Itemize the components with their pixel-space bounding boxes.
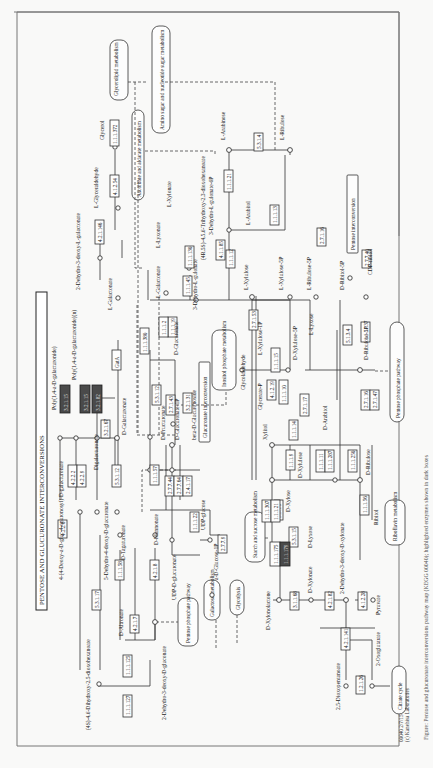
cpd-glucose-1p: a-D-Glucose-1P: [213, 544, 219, 580]
svg-text:1.1.1.9: 1.1.1.9: [288, 453, 294, 468]
enzyme-2-7-7-9[interactable]: 2.7.7.9: [218, 535, 227, 553]
enzyme-2-4-1-17[interactable]: 2.4.1.17: [183, 476, 192, 496]
enzyme-1-1-1-372[interactable]: 1.1.1.372: [110, 120, 119, 146]
cpd-l-galactonate: L-Galactonate: [107, 277, 113, 310]
svg-text:4.2.1.7: 4.2.1.7: [132, 616, 138, 631]
enzyme-2-7-1-16[interactable]: 2.7.1.16: [361, 390, 370, 410]
map-pentose-phosphate-main[interactable]: Pentose phosphate pathway: [390, 322, 404, 422]
enzyme-4-2-1-8[interactable]: 4.2.1.8: [150, 560, 159, 580]
svg-text:5.3.1.12: 5.3.1.12: [154, 386, 160, 403]
enzyme-1-1-1-125[interactable]: 1.1.1.125: [123, 655, 132, 677]
cpd-d-ribitol-5p: D-Ribitol-5P: [339, 261, 345, 290]
svg-text:4.2.1.82: 4.2.1.82: [327, 591, 333, 608]
map-glycerolipid[interactable]: Glycerolipid metabolism: [110, 40, 128, 100]
enzyme-2-7-1-47[interactable]: 2.7.1.47: [370, 390, 379, 410]
cpd-d-glucuronate: D-Glucuronate: [173, 321, 179, 355]
svg-text:1.1.1.56: 1.1.1.56: [362, 496, 368, 513]
svg-text:4.1.2.28: 4.1.2.28: [360, 591, 366, 608]
enzyme-5-3-1-17[interactable]: 5.3.1.17: [92, 590, 101, 610]
enzyme-2-7-1-17[interactable]: 2.7.1.17: [300, 394, 309, 416]
enzyme-4-2-2-9[interactable]: 4.2.2.9: [77, 465, 86, 487]
cpd-glycerate-p: Glycerate-P: [257, 383, 263, 410]
cpd-l-arabinose: L-Arabinose: [220, 111, 226, 140]
enzyme-1-1-1-56[interactable]: 1.1.1.56: [360, 495, 369, 515]
map-glucuronate-interconversion[interactable]: Glucuronate interconversion: [199, 362, 210, 442]
svg-text:3.2.1.15: 3.2.1.15: [83, 394, 89, 411]
enzyme-3-1-1-68[interactable]: 3.1.1.68: [290, 591, 299, 610]
enzyme-3-2-1-82[interactable]: 3.2.1.82: [92, 385, 102, 413]
enzyme-2-7-1-16-top[interactable]: 2.7.1.16: [317, 227, 326, 246]
enzyme-1-1-1-10[interactable]: 1.1.1.10: [279, 380, 288, 404]
enzyme-5-1-3-4[interactable]: 5.1.3.4: [343, 325, 352, 345]
enzyme-5-3-1-12[interactable]: 5.3.1.12: [112, 465, 121, 487]
enzyme-1-1-1-380[interactable]: 1.1.1.380: [140, 328, 149, 354]
enzyme-1-1-1-127[interactable]: 1.1.1.127: [123, 695, 132, 717]
cpd-dioxopentanoate: 2,5-Dioxopentanoate: [335, 662, 341, 710]
enzyme-1-1-1-11[interactable]: 1.1.1.11: [316, 450, 325, 472]
enzyme-1-1-1-21-arabinose[interactable]: 1.1.1.21: [224, 170, 233, 192]
enzyme-4-2-1-82[interactable]: 4.2.1.82: [325, 591, 334, 610]
svg-text:3.2.1.15: 3.2.1.15: [63, 394, 69, 411]
enzyme-4-1-2-54[interactable]: 4.1.2.54: [110, 175, 119, 197]
svg-text:5.1.3.4: 5.1.3.4: [345, 328, 351, 343]
cpd-l-xylonate: L-Xylonate: [166, 181, 172, 207]
map-amino-sugar[interactable]: Amino sugar and nucleotide sugar metabol…: [152, 26, 170, 133]
enzyme-4-2-1-141[interactable]: 4.2.1.141: [341, 628, 350, 650]
map-glycolysis[interactable]: Glycolysis: [230, 580, 244, 615]
enzyme-1-1-1-307[interactable]: 1.1.1.307: [262, 500, 271, 522]
svg-text:3.2.1.82: 3.2.1.82: [95, 394, 101, 411]
enzyme-4-1-2-28[interactable]: 4.1.2.28: [358, 591, 367, 610]
cpd-l-arabitol: L-Arabitol: [245, 201, 251, 225]
cpd-3-dehydro-l-gulonate: 3-Dehydro-L-gulonate: [192, 259, 198, 310]
enzyme-1-1-1-2[interactable]: 1.1.1.2: [159, 317, 168, 337]
enzyme-1-1-1-15[interactable]: 1.1.1.15: [271, 348, 280, 372]
svg-text:1.1.1.21: 1.1.1.21: [273, 503, 279, 520]
copyright: (c) Kanehisa Laboratories: [404, 688, 411, 742]
cpd-dehydro-deoxy-galactonate: 2-Dehydro-3-deoxy-L-galactonate: [75, 212, 81, 290]
svg-text:Citrate cycle: Citrate cycle: [397, 682, 403, 710]
enzyme-4-1-2-19[interactable]: 4.1.2.19: [267, 380, 276, 400]
enzyme-5-3-1-4[interactable]: 5.3.1.4: [254, 133, 263, 151]
enzyme-3-2-1-67[interactable]: 3.2.1.67: [101, 419, 110, 438]
enzyme-1-1-1-45[interactable]: 1.1.1.45: [183, 276, 192, 296]
frame-border: [14, 12, 399, 236]
enzyme-1-1-1-14[interactable]: 1.1.1.14: [289, 420, 298, 440]
enzyme-1-1-1-175[interactable]: 1.1.1.175: [270, 542, 280, 566]
svg-text:4.1.2.54: 4.1.2.54: [112, 178, 118, 195]
svg-text:1.1.1.179: 1.1.1.179: [283, 544, 289, 564]
enzyme-1-1-1-13[interactable]: 1.1.1.13: [270, 205, 279, 225]
enzyme-1-2-1-26[interactable]: 1.2.1.26: [356, 675, 365, 694]
enzyme-4-1-1-85[interactable]: 4.1.1.85: [216, 240, 225, 260]
enzyme-4-2-2-2[interactable]: 4.2.2.2: [68, 465, 77, 487]
cpd-dehydro-deoxy-xylonate: 2-Dehydro-3-deoxy-D-xylonate: [339, 522, 345, 594]
enzyme-4-2-1-146[interactable]: 4.2.1.146: [95, 220, 104, 244]
cpd-deoxy-gluc-enuronosyl-galacturonate: 4-(4-Deoxy-a-D-gluc-4-enuronosyl)-D-gala…: [58, 461, 65, 580]
cpd-l-lyxonate: L-Lyxonate: [155, 221, 161, 248]
svg-text:4.2.2.2: 4.2.2.2: [70, 470, 76, 485]
map-riboflavin[interactable]: Riboflavin metabolism: [385, 491, 405, 545]
enzyme-1-1-1-250[interactable]: 1.1.1.250: [348, 450, 357, 472]
svg-text:GatA: GatA: [114, 357, 120, 368]
enzyme-1-1-1-287[interactable]: 1.1.1.287: [325, 450, 334, 472]
enzyme-1-1-1-9[interactable]: 1.1.1.9: [286, 450, 295, 470]
map-pentose-interconversion[interactable]: Pentose interconversion: [347, 175, 358, 253]
enzyme-1-1-1-21[interactable]: 1.1.1.21: [271, 500, 280, 522]
enzyme-3-2-1-15-b[interactable]: 3.2.1.15: [80, 385, 90, 413]
enzyme-1-1-1-58[interactable]: 1.1.1.58: [115, 560, 124, 580]
enzyme-2-7-7-64[interactable]: 2.7.7.64: [174, 476, 183, 496]
cpd-d-lyxose: D-Lyxose: [307, 525, 313, 548]
enzyme-1-1-1-12[interactable]: 1.1.1.12: [226, 249, 235, 268]
enzyme-2-7-7-44[interactable]: 2.7.7.44: [165, 476, 174, 496]
svg-text:Inositol phosphate metabolism: Inositol phosphate metabolism: [221, 320, 227, 387]
svg-text:1.1.1.287: 1.1.1.287: [327, 450, 333, 470]
enzyme-gata[interactable]: GatA: [112, 350, 121, 370]
map-pentose-phosphate-left[interactable]: Pentose phosphate pathway: [178, 583, 198, 646]
enzyme-4-2-1-7[interactable]: 4.2.1.7: [130, 615, 139, 633]
enzyme-3-2-1-15-a[interactable]: 3.2.1.15: [60, 385, 70, 413]
svg-text:1.1.1.10: 1.1.1.10: [281, 385, 287, 402]
enzyme-1-1-1-22[interactable]: 1.1.1.22: [190, 512, 199, 532]
enzyme-1-1-1-57[interactable]: 1.1.1.57: [150, 465, 159, 485]
enzyme-5-3-1-12-fru[interactable]: 5.3.1.12: [152, 385, 161, 405]
enzyme-1-1-1-179[interactable]: 1.1.1.179: [280, 542, 290, 566]
map-inositol-phosphate[interactable]: Inositol phosphate metabolism: [212, 320, 236, 390]
